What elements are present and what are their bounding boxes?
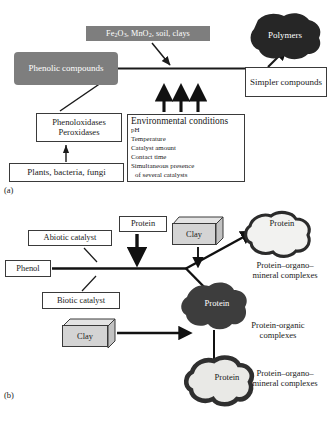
line-1: Protein-organic bbox=[251, 320, 304, 330]
protein-blob-top bbox=[246, 212, 310, 256]
simpler-compounds-label: Simpler compounds bbox=[250, 77, 322, 87]
list-item: Simultaneous presence bbox=[131, 162, 244, 171]
panel-b: Abiotic catalyst Phenol Biotic catalyst … bbox=[0, 200, 334, 431]
panel-a: Fe2O3, MnO2, soil, clays Phenolic compou… bbox=[0, 0, 334, 200]
abiotic-catalyst-box: Abiotic catalyst bbox=[28, 230, 112, 246]
enzymes-labels: Phenoloxidases Peroxidases bbox=[52, 118, 105, 137]
protein-box: Protein bbox=[119, 216, 167, 232]
biotic-catalyst-label: Biotic catalyst bbox=[57, 296, 105, 305]
biotic-catalyst-box: Biotic catalyst bbox=[42, 292, 120, 309]
line-2: mineral complexes bbox=[252, 378, 317, 388]
clay-top-label: Clay bbox=[186, 230, 202, 239]
line-2: complexes bbox=[260, 330, 297, 340]
line-1: Protein–organo– bbox=[256, 368, 313, 378]
protein-organo-mineral-complexes-1: Protein–organo– mineral complexes bbox=[236, 260, 334, 280]
sources-label: Plants, bacteria, fungi bbox=[27, 167, 105, 177]
abiotic-catalyst-label: Abiotic catalyst bbox=[44, 233, 97, 242]
list-item: Contact time bbox=[131, 153, 244, 162]
peroxidases-label: Peroxidases bbox=[58, 127, 99, 137]
panel-a-caption: (a) bbox=[4, 185, 13, 195]
clay-box-bottom: Clay bbox=[62, 318, 116, 349]
simpler-compounds-box: Simpler compounds bbox=[245, 67, 327, 97]
phenol-box: Phenol bbox=[5, 260, 51, 277]
environmental-conditions-list: pH Temperature Catalyst amount Contact t… bbox=[131, 126, 244, 179]
clay-box-top: Clay bbox=[172, 216, 224, 246]
environmental-conditions-box: Environmental conditions pH Temperature … bbox=[127, 114, 245, 182]
list-item: Catalyst amount bbox=[131, 144, 244, 153]
phenolic-compounds-label: Phenolic compounds bbox=[28, 63, 103, 73]
clay-bottom-label-face: Clay bbox=[62, 325, 108, 347]
phenoloxidases-label: Phenoloxidases bbox=[52, 117, 105, 127]
list-item: Temperature bbox=[131, 135, 244, 144]
phenolic-compounds-box: Phenolic compounds bbox=[14, 52, 118, 85]
enzymes-box: Phenoloxidases Peroxidases bbox=[36, 113, 122, 142]
protein-box-label: Protein bbox=[131, 219, 155, 228]
list-item: of several catalysts bbox=[131, 171, 244, 180]
environmental-conditions-title: Environmental conditions bbox=[131, 116, 244, 126]
protein-organic-complexes: Protein-organic complexes bbox=[232, 320, 324, 340]
line-2: mineral complexes bbox=[252, 270, 317, 280]
list-item: pH bbox=[131, 126, 244, 135]
sources-box: Plants, bacteria, fungi bbox=[9, 163, 124, 182]
clay-bottom-label: Clay bbox=[77, 332, 93, 341]
phenol-label: Phenol bbox=[16, 264, 39, 273]
polymers-blob bbox=[251, 13, 321, 59]
panel-b-caption: (b) bbox=[4, 390, 14, 400]
protein-organo-mineral-complexes-2: Protein–organo– mineral complexes bbox=[237, 368, 333, 388]
oxides-soil-clays-box: Fe2O3, MnO2, soil, clays bbox=[86, 26, 210, 41]
line-1: Protein–organo– bbox=[256, 260, 313, 270]
clay-top-label-face: Clay bbox=[172, 223, 216, 245]
oxides-label: Fe2O3, MnO2, soil, clays bbox=[106, 29, 190, 39]
